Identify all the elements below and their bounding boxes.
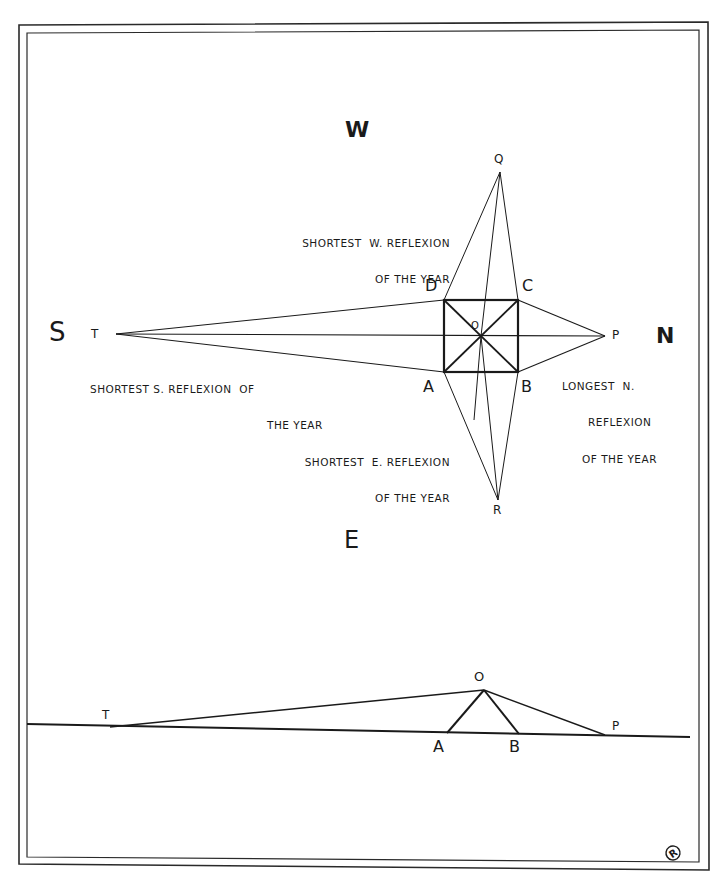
longest-north-line2: REFLEXION [560,416,690,428]
monogram-icon: R [663,843,682,862]
elevation-point-p-label: P [612,720,619,734]
corner-b-label: B [521,378,532,396]
shortest-west-line1: SHORTEST W. REFLEXION [252,237,450,249]
shortest-south-line1: SHORTEST S. REFLEXION OF [90,383,323,395]
shortest-east-reflexion-note: SHORTEST E. REFLEXION OF THE YEAR [258,432,450,529]
compass-east-label: E [344,527,359,555]
shortest-east-line2: OF THE YEAR [258,492,450,504]
elevation-point-t-label: T [102,709,109,723]
longest-north-reflexion-note: LONGEST N. REFLEXION OF THE YEAR [560,356,690,489]
center-o-label: O [471,320,479,332]
corner-a-label: A [423,378,434,396]
point-q-label: Q [494,153,503,167]
compass-west-label: W [345,117,369,142]
elevation-point-b-label: B [509,738,520,756]
point-t-label: T [91,328,98,342]
shortest-south-line2: THE YEAR [90,419,323,431]
elevation-point-o-label: O [474,670,484,685]
elevation-point-a-label: A [433,738,444,756]
shortest-east-line1: SHORTEST E. REFLEXION [258,456,450,468]
longest-north-line3: OF THE YEAR [560,453,690,465]
point-r-label: R [493,504,501,518]
diagram-figure: R W S N E Q T P R O D C A B SHORTEST W. … [0,0,717,885]
corner-c-label: C [522,277,533,295]
longest-north-line1: LONGEST N. [560,380,690,392]
elevation-lines [27,690,690,737]
compass-south-label: S [49,318,66,348]
compass-north-label: N [656,323,674,348]
point-p-label: P [612,329,619,343]
shortest-west-line2: OF THE YEAR [252,273,450,285]
shortest-west-reflexion-note: SHORTEST W. REFLEXION OF THE YEAR [252,213,450,310]
